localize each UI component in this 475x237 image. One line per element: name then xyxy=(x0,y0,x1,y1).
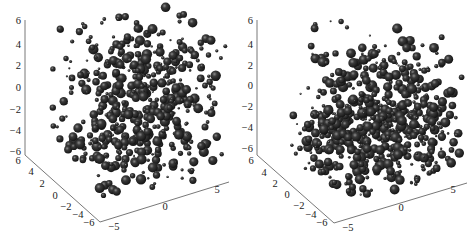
data-bubble xyxy=(330,20,332,22)
data-bubble xyxy=(111,126,116,131)
data-bubble xyxy=(317,141,322,146)
data-bubble xyxy=(155,147,161,153)
data-bubble xyxy=(412,100,416,104)
data-bubble xyxy=(310,165,316,171)
data-bubble xyxy=(176,55,183,62)
data-bubble xyxy=(211,86,216,91)
data-bubble xyxy=(402,59,408,65)
z-tick: 6 xyxy=(16,15,21,26)
data-bubble xyxy=(434,161,437,164)
data-bubble xyxy=(202,83,208,89)
data-bubble xyxy=(57,25,64,32)
data-bubble xyxy=(186,61,193,68)
data-bubble xyxy=(166,176,168,178)
data-bubble xyxy=(169,142,175,148)
data-bubble xyxy=(434,64,438,68)
data-bubble xyxy=(148,24,158,34)
data-bubble xyxy=(358,141,361,144)
data-bubble xyxy=(392,23,402,33)
data-bubble xyxy=(152,91,154,93)
data-bubble xyxy=(106,136,112,142)
data-bubble xyxy=(178,64,186,72)
data-bubble xyxy=(319,134,324,139)
data-bubble xyxy=(410,73,420,83)
data-bubble xyxy=(168,159,177,168)
data-bubble xyxy=(359,185,366,192)
data-bubble xyxy=(410,111,413,114)
data-bubble xyxy=(296,123,298,125)
data-bubble xyxy=(350,70,359,79)
data-bubble xyxy=(146,159,150,163)
data-bubble xyxy=(190,168,195,173)
data-bubble xyxy=(206,120,210,124)
data-bubble xyxy=(89,45,95,51)
data-bubble xyxy=(328,176,331,179)
z-tick: −4 xyxy=(242,122,254,133)
z-tick: −6 xyxy=(242,143,253,154)
data-bubble xyxy=(455,148,464,157)
data-bubble xyxy=(372,44,377,49)
y-tick: −6 xyxy=(316,217,327,228)
data-bubble xyxy=(108,115,117,124)
data-bubble xyxy=(133,155,135,157)
data-bubble xyxy=(96,124,98,126)
data-bubble xyxy=(95,183,105,193)
data-bubble xyxy=(211,70,221,80)
data-bubble xyxy=(418,128,425,135)
data-bubble xyxy=(118,151,122,155)
data-bubble xyxy=(446,111,454,119)
data-bubble xyxy=(384,44,387,47)
data-bubble xyxy=(385,73,394,82)
data-bubble xyxy=(297,145,303,151)
data-bubble xyxy=(186,133,188,135)
data-bubble xyxy=(87,132,93,138)
data-bubble xyxy=(193,104,203,114)
data-bubble xyxy=(150,78,159,87)
data-bubble xyxy=(399,65,406,72)
data-bubble xyxy=(363,144,372,153)
data-bubble xyxy=(428,117,437,126)
data-bubble xyxy=(153,51,156,54)
data-bubble xyxy=(96,91,102,97)
data-bubble xyxy=(206,52,211,57)
data-bubble xyxy=(393,150,403,160)
data-bubble xyxy=(290,144,293,147)
x-tick: 5 xyxy=(450,184,455,195)
data-bubble xyxy=(92,78,100,86)
data-bubble xyxy=(315,160,324,169)
data-bubble xyxy=(180,11,187,18)
data-bubble xyxy=(363,112,366,115)
data-bubble xyxy=(82,24,87,29)
data-bubble xyxy=(349,160,358,169)
data-bubble xyxy=(369,119,371,121)
x-tick: −5 xyxy=(342,222,353,233)
data-bubble xyxy=(139,84,144,89)
data-bubble xyxy=(391,111,395,115)
data-bubble xyxy=(335,94,341,100)
data-bubble xyxy=(63,56,68,61)
data-bubble xyxy=(305,136,312,143)
data-bubble xyxy=(149,184,155,190)
data-bubble xyxy=(151,45,153,47)
data-bubble xyxy=(439,125,443,129)
data-bubble xyxy=(126,149,133,156)
data-bubble xyxy=(128,69,131,72)
data-bubble xyxy=(106,62,109,65)
data-bubble xyxy=(361,53,364,56)
data-bubble xyxy=(392,59,397,64)
data-bubble xyxy=(336,145,345,154)
bubbles-right xyxy=(290,19,465,198)
data-bubble xyxy=(180,99,183,102)
data-bubble xyxy=(99,106,104,111)
data-bubble xyxy=(421,141,426,146)
data-bubble xyxy=(439,34,445,40)
data-bubble xyxy=(148,163,158,173)
data-bubble xyxy=(148,98,152,102)
z-tick: 4 xyxy=(248,39,254,50)
data-bubble xyxy=(178,20,182,24)
data-bubble xyxy=(123,135,125,137)
y-tick: 6 xyxy=(15,155,20,166)
data-bubble xyxy=(151,153,154,156)
y-tick: 0 xyxy=(52,190,57,201)
data-bubble xyxy=(351,132,361,142)
